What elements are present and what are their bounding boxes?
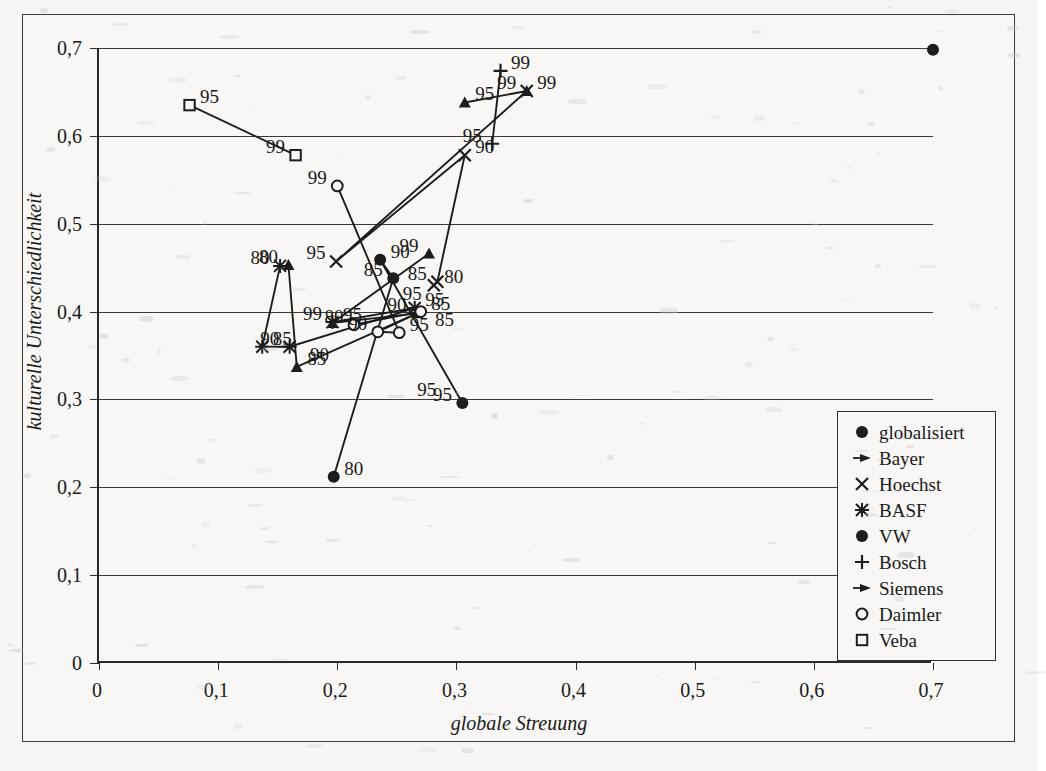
legend-item-bayer[interactable]: Bayer (838, 445, 995, 471)
legend-item-globalisiert[interactable]: globalisiert (838, 419, 995, 445)
paper-speck (789, 348, 798, 351)
point-year-label: 95 (410, 314, 429, 333)
paper-speck (234, 723, 243, 729)
point-year-label: 95 (417, 379, 436, 398)
paper-speck (897, 552, 914, 558)
legend-item-daimler[interactable]: Daimler (838, 601, 995, 627)
legend-item-hoechst[interactable]: Hoechst (838, 471, 995, 497)
paper-speck (420, 295, 425, 299)
point-year-label: 90 (391, 241, 410, 260)
paper-speck (391, 497, 404, 500)
paper-speck (641, 422, 644, 425)
y-tick-label: 0 (30, 653, 82, 673)
paper-speck (491, 413, 498, 418)
x-tick-label: 0,2 (323, 680, 348, 700)
paper-speck (254, 468, 272, 473)
x-tick-mark (99, 663, 100, 670)
point-year-label: 85 (435, 309, 454, 328)
point-year-label: 80 (444, 267, 463, 286)
paper-speck (440, 476, 460, 478)
paper-speck (1026, 671, 1046, 674)
paper-speck (794, 122, 801, 124)
paper-speck (994, 307, 998, 309)
paper-speck (703, 396, 721, 400)
legend-label: BASF (875, 501, 927, 520)
paper-speck (969, 303, 980, 309)
paper-speck (523, 199, 533, 203)
gridline (99, 48, 933, 49)
paper-speck (100, 334, 108, 339)
paper-speck (879, 628, 898, 630)
point-year-label: 99 (303, 304, 322, 323)
paper-speck (88, 345, 97, 348)
paper-speck (906, 445, 914, 448)
point-year-label: 99 (511, 52, 530, 71)
gridline (99, 136, 933, 137)
paper-speck (765, 407, 783, 412)
paper-speck (660, 308, 677, 314)
x-tick-mark (576, 663, 577, 670)
paper-speck (568, 99, 587, 104)
legend-item-basf[interactable]: BASF (838, 497, 995, 523)
paper-speck (812, 223, 817, 225)
legend-item-bosch[interactable]: Bosch (838, 549, 995, 575)
paper-speck (647, 84, 667, 89)
series-plot (99, 48, 933, 663)
x-tick-mark (456, 663, 457, 670)
series-siemens (459, 85, 533, 107)
x-tick-label: 0,6 (799, 680, 824, 700)
legend-item-veba[interactable]: Veba (838, 627, 995, 653)
series-hoechst (330, 85, 533, 291)
series-vw (328, 254, 469, 483)
paper-speck (875, 264, 881, 268)
legend-label: Siemens (875, 579, 943, 598)
paper-speck (797, 580, 811, 583)
paper-speck (7, 643, 13, 647)
legend-item-siemens[interactable]: Siemens (838, 575, 995, 601)
paper-speck (235, 75, 240, 77)
paper-speck (1028, 307, 1031, 308)
legend-label: Veba (875, 631, 917, 650)
plus-icon (849, 552, 875, 572)
gridline (99, 224, 933, 225)
paper-speck (234, 192, 253, 194)
legend-label: Hoechst (875, 475, 941, 494)
paper-speck (655, 675, 659, 676)
paper-speck (9, 649, 24, 652)
paper-speck (718, 240, 735, 242)
point-year-label: 80 (344, 458, 363, 477)
point-year-label: 95 (403, 284, 422, 303)
paper-speck (265, 541, 279, 543)
open-square-icon (849, 630, 875, 650)
paper-speck (472, 607, 480, 609)
y-tick-mark (90, 575, 99, 576)
paper-speck (93, 176, 111, 182)
paper-speck (461, 748, 475, 754)
paper-speck (388, 395, 404, 398)
point-year-label: 95 (463, 125, 482, 144)
y-tick-mark (90, 663, 99, 664)
paper-speck (876, 152, 882, 155)
paper-speck (306, 744, 323, 748)
paper-speck (751, 30, 762, 34)
paper-speck (539, 410, 559, 415)
x-tick-label: 0,4 (561, 680, 586, 700)
paper-speck (203, 220, 208, 225)
point-year-label: 99 (537, 73, 556, 92)
point-year-label: 95 (200, 87, 219, 106)
paper-speck (176, 255, 190, 259)
paper-speck (853, 450, 868, 451)
paper-speck (171, 376, 188, 380)
legend-item-vw[interactable]: VW (838, 523, 995, 549)
filled-circle-icon (849, 422, 875, 442)
x-tick-mark (337, 663, 338, 670)
point-year-label: 85 (408, 263, 427, 282)
gridline (99, 399, 933, 400)
paper-speck (846, 166, 852, 169)
paper-speck (607, 455, 613, 460)
chart-legend[interactable]: globalisiertBayerHoechstBASFVWBoschSieme… (837, 411, 996, 661)
paper-speck (939, 86, 943, 91)
paper-speck (122, 358, 131, 361)
point-year-label: 80 (324, 306, 343, 325)
paper-speck (171, 186, 177, 187)
